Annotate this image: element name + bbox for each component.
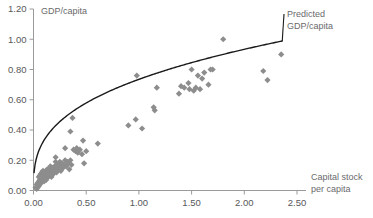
y-axis-title: GDP/capita xyxy=(41,6,87,16)
chart-container: 0.000.200.400.600.801.001.20 0.000.501.0… xyxy=(0,0,373,218)
y-axis-tick-labels: 0.000.200.400.600.801.001.20 xyxy=(8,3,27,196)
y-axis-ticks xyxy=(30,9,34,191)
data-point xyxy=(154,85,160,91)
x-axis-ticks xyxy=(34,191,298,195)
data-point xyxy=(260,68,266,74)
y-tick-label: 0.60 xyxy=(8,94,27,105)
data-point xyxy=(189,66,195,72)
x-tick-label: 1.50 xyxy=(182,197,201,208)
data-point xyxy=(278,51,284,57)
x-axis-title-line1: Capital stock xyxy=(311,172,363,182)
predicted-gdp-curve xyxy=(34,41,282,173)
y-tick-label: 0.40 xyxy=(8,124,27,135)
data-point-markers xyxy=(33,36,285,192)
data-point xyxy=(95,141,101,147)
predicted-curve-label-line1: Predicted xyxy=(287,9,325,19)
scatter-chart: 0.000.200.400.600.801.001.20 0.000.501.0… xyxy=(0,0,373,218)
x-axis-tick-labels: 0.000.501.001.502.002.50 xyxy=(24,197,306,208)
y-tick-label: 0.20 xyxy=(8,155,27,166)
data-point xyxy=(139,125,145,131)
data-point xyxy=(69,115,75,121)
y-tick-label: 0.80 xyxy=(8,64,27,75)
data-point xyxy=(264,77,270,83)
data-point xyxy=(185,80,191,86)
y-tick-label: 0.00 xyxy=(8,185,27,196)
data-point xyxy=(62,145,68,151)
y-tick-label: 1.20 xyxy=(8,3,27,14)
x-tick-label: 2.00 xyxy=(235,197,254,208)
data-point xyxy=(53,154,59,160)
data-point xyxy=(201,69,207,75)
axes xyxy=(34,9,307,191)
predicted-curve-label-line2: GDP/capita xyxy=(287,21,333,31)
data-point xyxy=(133,116,139,122)
data-point xyxy=(80,137,86,143)
annotation-leader-line xyxy=(282,14,284,41)
data-point xyxy=(134,72,140,78)
data-point xyxy=(205,82,211,88)
x-tick-label: 2.50 xyxy=(288,197,307,208)
data-point xyxy=(67,128,73,134)
data-point xyxy=(125,122,131,128)
x-tick-label: 0.00 xyxy=(24,197,43,208)
x-axis-title-line2: per capita xyxy=(311,184,351,194)
data-point xyxy=(220,36,226,42)
data-point xyxy=(81,160,87,166)
x-tick-label: 1.00 xyxy=(130,197,149,208)
data-point xyxy=(176,91,182,97)
x-tick-label: 0.50 xyxy=(77,197,96,208)
y-tick-label: 1.00 xyxy=(8,34,27,45)
